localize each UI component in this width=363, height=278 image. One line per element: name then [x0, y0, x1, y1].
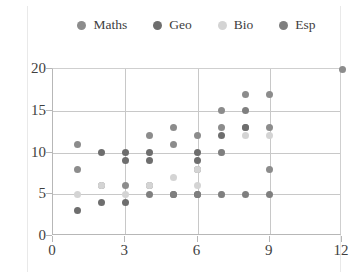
gridline-horizontal [53, 111, 340, 112]
y-axis-tick-label: 0 [8, 228, 46, 243]
data-point [122, 199, 129, 206]
data-point [194, 157, 201, 164]
x-axis-tick-label: 9 [254, 243, 284, 258]
data-point [194, 166, 201, 173]
legend-item-bio[interactable]: Bio [218, 18, 254, 32]
legend-item-maths[interactable]: Maths [77, 18, 127, 32]
x-axis-tick-label: 3 [109, 243, 139, 258]
data-point [194, 132, 201, 139]
y-axis-tick-label: 15 [8, 103, 46, 118]
data-point [98, 199, 105, 206]
y-axis-tickmark [46, 193, 52, 194]
data-point [170, 174, 177, 181]
data-point [74, 141, 81, 148]
y-axis-tick-label: 5 [8, 186, 46, 201]
data-point [170, 124, 177, 131]
data-point [242, 91, 249, 98]
data-point [122, 191, 129, 198]
legend-item-label: Bio [234, 18, 254, 32]
x-axis-tickmark [52, 236, 53, 242]
data-point [218, 149, 225, 156]
legend-marker-icon [279, 21, 288, 30]
data-point [194, 149, 201, 156]
x-axis-tickmark [124, 236, 125, 242]
data-point [146, 132, 153, 139]
x-axis-tick-label: 6 [182, 243, 212, 258]
data-point [98, 149, 105, 156]
data-point [146, 191, 153, 198]
data-point [122, 149, 129, 156]
data-point [170, 141, 177, 148]
x-axis-tickmark [341, 236, 342, 242]
data-point [266, 91, 273, 98]
data-point [74, 191, 81, 198]
x-axis-tick-label: 0 [37, 243, 67, 258]
legend-item-label: Maths [93, 18, 127, 32]
data-point [266, 132, 273, 139]
data-point [146, 157, 153, 164]
data-point [74, 166, 81, 173]
chart-legend: MathsGeoBioEsp [52, 14, 341, 36]
data-point [266, 191, 273, 198]
data-point [242, 132, 249, 139]
data-point [266, 166, 273, 173]
data-point [218, 132, 225, 139]
data-point [122, 157, 129, 164]
scatter-chart: MathsGeoBioEsp 05101520036912 [0, 0, 363, 278]
legend-item-geo[interactable]: Geo [153, 18, 192, 32]
plot-area [52, 68, 341, 235]
data-point [98, 182, 105, 189]
data-point [242, 107, 249, 114]
data-point [146, 149, 153, 156]
data-point [266, 124, 273, 131]
data-point [242, 191, 249, 198]
data-point [194, 191, 201, 198]
y-axis-tickmark [46, 152, 52, 153]
legend-marker-icon [153, 21, 162, 30]
legend-item-esp[interactable]: Esp [279, 18, 315, 32]
data-point [218, 124, 225, 131]
data-point [170, 191, 177, 198]
y-axis-tickmark [46, 68, 52, 69]
x-axis-tick-label: 12 [326, 243, 356, 258]
data-point [218, 191, 225, 198]
y-axis-tick-label: 10 [8, 145, 46, 160]
data-point [122, 182, 129, 189]
data-point [146, 182, 153, 189]
y-axis-tick-label: 20 [8, 61, 46, 76]
x-axis-tickmark [197, 236, 198, 242]
y-axis-tickmark [46, 110, 52, 111]
legend-item-label: Geo [169, 18, 192, 32]
legend-marker-icon [77, 21, 86, 30]
data-point [74, 207, 81, 214]
data-point [242, 124, 249, 131]
data-point [339, 66, 346, 73]
data-point [194, 182, 201, 189]
x-axis-tickmark [269, 236, 270, 242]
legend-marker-icon [218, 21, 227, 30]
legend-item-label: Esp [295, 18, 315, 32]
data-point [218, 107, 225, 114]
